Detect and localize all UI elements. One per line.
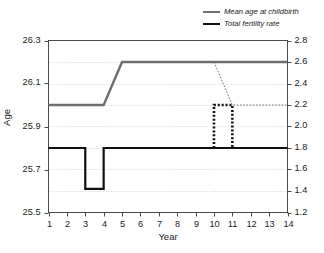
y-axis-tick-label-right: 2.8 [295, 35, 324, 45]
x-axis-tick-label: 8 [168, 219, 188, 229]
y-axis-tick-label-left: 26.1 [11, 77, 41, 87]
x-axis-tick-label: 1 [40, 219, 60, 229]
series-line-mean-age-at-childbirth [49, 62, 288, 105]
y-axis-tick-label-right: 2.2 [295, 99, 324, 109]
x-axis-tick-label: 14 [279, 219, 299, 229]
x-axis-tick-label: 10 [205, 219, 225, 229]
y-axis-tick-label-right: 1.4 [295, 185, 324, 195]
chart-container: Mean age at childbirth Total fertility r… [0, 0, 324, 253]
x-axis-tick-label: 7 [150, 219, 170, 229]
x-axis-tick-label: 4 [95, 219, 115, 229]
y-axis-tick-label-left: 25.7 [11, 164, 41, 174]
series-line-total-fertility-rate [49, 148, 288, 189]
y-axis-tick-label-right: 2.0 [295, 120, 324, 130]
x-axis-tick-label: 13 [260, 219, 280, 229]
chart-tick-marks [45, 42, 292, 217]
chart-plot-svg [0, 0, 324, 253]
x-axis-tick-label: 2 [58, 219, 78, 229]
y-axis-tick-label-right: 1.6 [295, 163, 324, 173]
annotation-mean-age-dashed-branch [214, 62, 288, 105]
y-axis-tick-label-left: 26.3 [11, 35, 41, 45]
y-axis-tick-label-left: 25.5 [11, 207, 41, 217]
x-axis-tick-label: 9 [187, 219, 207, 229]
y-axis-tick-label-right: 1.8 [295, 142, 324, 152]
x-axis-tick-label: 3 [76, 219, 96, 229]
y-axis-tick-label-right: 2.4 [295, 78, 324, 88]
y-axis-tick-label-right: 2.6 [295, 56, 324, 66]
x-axis-tick-label: 5 [113, 219, 133, 229]
chart-annotations-group [214, 62, 288, 148]
y-axis-tick-label-left: 25.9 [11, 121, 41, 131]
x-axis-tick-label: 12 [242, 219, 262, 229]
x-axis-tick-label: 6 [131, 219, 151, 229]
y-axis-tick-label-right: 1.2 [295, 207, 324, 217]
x-axis-tick-label: 11 [223, 219, 243, 229]
